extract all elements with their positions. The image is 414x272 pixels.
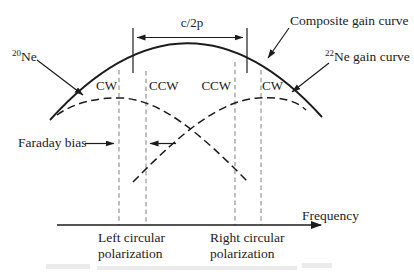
mode-label-ccw-left: CCW (149, 78, 179, 93)
composite-curve-label: Composite gain curve (290, 13, 408, 28)
gain-curve-diagram: c/2p 20Ne Composite gain curve 22Ne gain… (0, 0, 414, 272)
composite-pointer-arrow (268, 28, 289, 58)
ne20-label: 20Ne (12, 48, 37, 64)
ne20-pointer-arrow (37, 60, 83, 95)
ne22-gain-curve (133, 98, 306, 182)
dimension-label: c/2p (181, 15, 203, 30)
scan-artifacts (46, 263, 332, 270)
mode-label-cw-left: CW (96, 78, 118, 93)
frequency-axis-label: Frequency (302, 208, 359, 223)
mode-label-ccw-right: CCW (201, 78, 231, 93)
right-polarization-label-line1: Right circular (210, 230, 285, 245)
right-polarization-label-line2: polarization (210, 246, 275, 261)
faraday-bias-label: Faraday bias (18, 135, 87, 150)
left-polarization-label-line2: polarization (98, 246, 163, 261)
ne22-curve-label: 22Ne gain curve (325, 48, 410, 64)
diagram-canvas: c/2p 20Ne Composite gain curve 22Ne gain… (0, 0, 414, 272)
left-polarization-label-line1: Left circular (98, 230, 166, 245)
mode-label-cw-right: CW (262, 78, 284, 93)
ne22-pointer-arrow (292, 63, 329, 92)
